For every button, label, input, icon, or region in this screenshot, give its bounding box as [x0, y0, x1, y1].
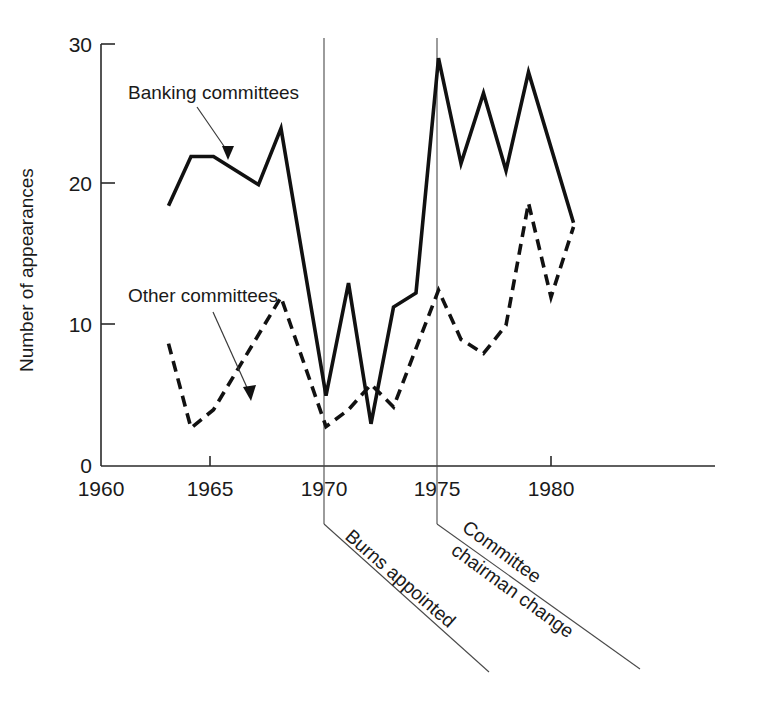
- x-tick-label-1960: 1960: [78, 477, 125, 500]
- burns-appointed-label: Burns appointed: [341, 525, 459, 632]
- chart-container: 30 20 10 0 1960 1965 1970 1975 1980 Numb…: [0, 0, 765, 709]
- other-committees-callout-label: Other committees: [128, 285, 278, 306]
- x-tick-label-1980: 1980: [528, 477, 575, 500]
- other-committees-callout-arrowhead: [243, 385, 256, 401]
- series-line-other-committees: [169, 203, 574, 428]
- banking-committees-callout-label: Banking committees: [128, 82, 299, 103]
- banking-committees-callout-arrowhead: [222, 146, 234, 160]
- y-tick-label-10: 10: [69, 313, 92, 336]
- x-axis-ticks: [210, 456, 551, 466]
- y-tick-label-0: 0: [80, 454, 92, 477]
- banking-committees-callout-leader: [197, 107, 228, 152]
- line-chart-svg: 30 20 10 0 1960 1965 1970 1975 1980 Numb…: [0, 0, 765, 709]
- x-tick-label-1965: 1965: [187, 477, 234, 500]
- series-line-banking-committees: [169, 58, 574, 424]
- y-axis-title: Number of appearances: [16, 168, 37, 372]
- y-tick-label-20: 20: [69, 172, 92, 195]
- y-axis-ticks: [101, 44, 115, 324]
- y-tick-label-30: 30: [69, 33, 92, 56]
